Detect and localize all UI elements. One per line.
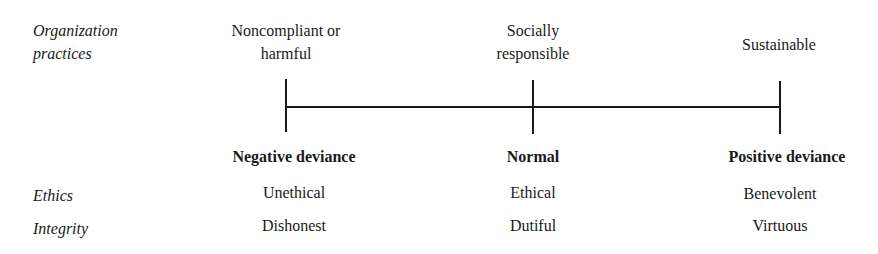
category-positive-deviance: Positive deviance — [729, 147, 846, 167]
integrity-positive: Virtuous — [752, 216, 807, 236]
tick-negative — [285, 79, 287, 132]
ethics-negative: Unethical — [263, 183, 325, 203]
tick-positive — [779, 81, 781, 134]
ethics-normal: Ethical — [510, 183, 555, 203]
integrity-negative: Dishonest — [262, 216, 326, 236]
category-negative-deviance: Negative deviance — [232, 147, 355, 167]
row-label-practices-line1: Organization — [33, 21, 118, 41]
integrity-normal: Dutiful — [510, 216, 556, 236]
tick-normal — [532, 80, 534, 134]
practice-negative-line2: harmful — [261, 44, 312, 64]
practice-normal-line1: Socially — [507, 21, 559, 41]
row-label-integrity: Integrity — [33, 219, 88, 239]
category-normal: Normal — [507, 147, 559, 167]
ethics-positive: Benevolent — [744, 184, 817, 204]
row-label-ethics: Ethics — [33, 186, 73, 206]
practice-normal-line2: responsible — [497, 44, 570, 64]
row-label-practices-line2: practices — [33, 44, 92, 64]
practice-negative-line1: Noncompliant or — [232, 21, 341, 41]
practice-positive: Sustainable — [742, 35, 816, 55]
